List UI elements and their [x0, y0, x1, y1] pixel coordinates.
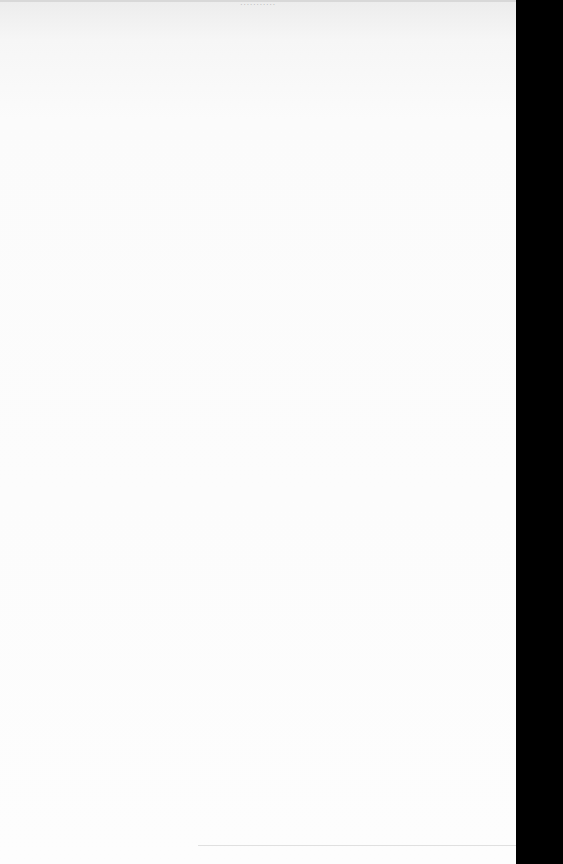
scan-margin: [516, 0, 563, 864]
running-header: ...........: [0, 0, 516, 7]
scanned-page: ...........: [0, 0, 516, 864]
bottom-rule: [198, 845, 563, 846]
